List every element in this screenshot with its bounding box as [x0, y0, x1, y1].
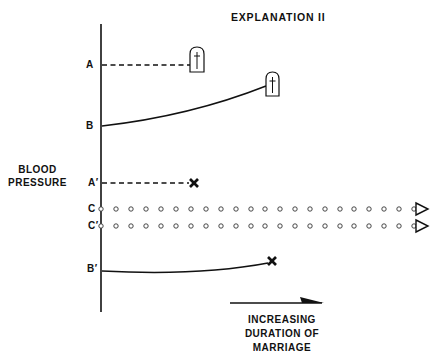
line-c-dotted	[99, 207, 416, 211]
line-c-prime-dotted	[99, 224, 416, 228]
x-mark-icon-b-prime	[268, 257, 276, 265]
tombstone-icon-a	[190, 47, 204, 72]
triangle-arrow-icon-c-prime	[416, 220, 428, 232]
tombstone-icon-b	[266, 72, 279, 96]
line-b-curve	[102, 86, 266, 126]
line-b-prime-curve	[102, 263, 268, 272]
triangle-arrow-icon-c	[416, 203, 428, 215]
diagram-canvas	[0, 0, 444, 356]
x-mark-icon-a-prime	[190, 179, 198, 187]
duration-arrow-icon	[230, 297, 324, 303]
